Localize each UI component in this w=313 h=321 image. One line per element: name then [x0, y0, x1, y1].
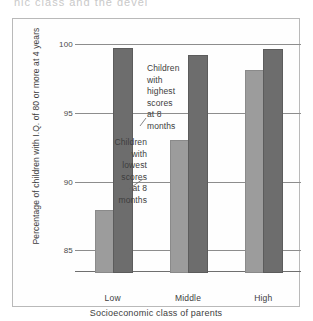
- bar-high-dark: [263, 49, 283, 273]
- bar-high-light: [245, 70, 265, 273]
- gridline-100: [75, 44, 301, 45]
- annotation-highest-scores: Childrenwithhighestscoresat 8months: [147, 63, 227, 132]
- bar-middle-light: [170, 140, 190, 273]
- x-tick-label-low: Low: [78, 293, 148, 303]
- annotation-line: Children: [147, 63, 227, 75]
- y-axis-title: Percentage of children with I.Q. of 80 o…: [31, 21, 41, 251]
- y-tick-label-85: 85: [47, 246, 73, 255]
- x-tick-label-high: High: [228, 293, 298, 303]
- y-tick-label-100: 100: [47, 39, 73, 48]
- annotation-line: scores: [63, 172, 147, 184]
- annotation-line: at 8: [63, 183, 147, 195]
- figure-frame: Percentage of children with I.Q. of 80 o…: [12, 18, 300, 307]
- annotation-lowest-scores: Childrenwithlowestscoresat 8months: [63, 137, 147, 206]
- annotation-line: scores: [147, 98, 227, 110]
- bar-low-light: [95, 210, 115, 273]
- x-tick-label-middle: Middle: [153, 293, 223, 303]
- x-axis-title: Socioeconomic class of parents: [13, 308, 299, 318]
- annotation-line: months: [147, 121, 227, 133]
- y-tick-label-95: 95: [47, 108, 73, 117]
- plot-area: Percentage of children with I.Q. of 80 o…: [13, 19, 299, 306]
- annotation-line: with: [63, 149, 147, 161]
- annotation-line: at 8: [147, 109, 227, 121]
- annotation-line: with: [147, 75, 227, 87]
- annotation-line: highest: [147, 86, 227, 98]
- annotation-line: lowest: [63, 160, 147, 172]
- annotation-line: months: [63, 195, 147, 207]
- annotation-line: Children: [63, 137, 147, 149]
- cut-off-caption-fragment: nic class and the devel: [14, 0, 244, 8]
